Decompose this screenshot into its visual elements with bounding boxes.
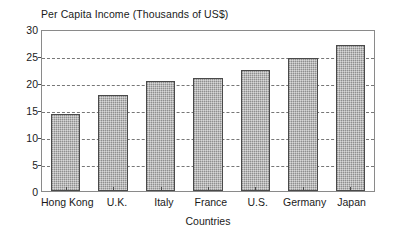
x-tick-label-japan: Japan bbox=[328, 196, 375, 208]
y-tick-label-15: 15 bbox=[2, 105, 38, 117]
bar-slot bbox=[232, 31, 279, 191]
x-tick-mark-4 bbox=[255, 187, 256, 191]
x-axis-tick-labels: Hong KongU.K.ItalyFranceU.S.GermanyJapan bbox=[41, 196, 375, 208]
bar-slot bbox=[327, 31, 374, 191]
bar-germany[interactable] bbox=[288, 58, 317, 191]
y-tick-label-0: 0 bbox=[2, 186, 38, 198]
bar-hong-kong[interactable] bbox=[51, 114, 80, 191]
x-tick-label-germany: Germany bbox=[281, 196, 328, 208]
bar-slot bbox=[89, 31, 136, 191]
x-tick-label-u-k: U.K. bbox=[94, 196, 141, 208]
x-tick-mark-0 bbox=[66, 187, 67, 191]
y-tick-label-30: 30 bbox=[2, 24, 38, 36]
bar-u-s[interactable] bbox=[241, 70, 270, 191]
bar-slot bbox=[184, 31, 231, 191]
bar-france[interactable] bbox=[193, 78, 222, 191]
x-axis-title: Countries bbox=[41, 215, 375, 227]
bar-slot bbox=[279, 31, 326, 191]
y-tick-label-20: 20 bbox=[2, 78, 38, 90]
plot-area bbox=[41, 30, 375, 192]
chart-title: Per Capita Income (Thousands of US$) bbox=[41, 8, 228, 20]
bar-italy[interactable] bbox=[146, 81, 175, 191]
y-tick-label-10: 10 bbox=[2, 132, 38, 144]
x-tick-label-italy: Italy bbox=[140, 196, 187, 208]
bar-japan[interactable] bbox=[336, 45, 365, 191]
x-tick-mark-5 bbox=[303, 187, 304, 191]
bar-chart: Per Capita Income (Thousands of US$) 051… bbox=[0, 0, 399, 246]
bar-slot bbox=[137, 31, 184, 191]
x-tick-label-hong-kong: Hong Kong bbox=[41, 196, 94, 208]
x-tick-mark-6 bbox=[350, 187, 351, 191]
bar-u-k[interactable] bbox=[98, 95, 127, 191]
x-tick-label-france: France bbox=[187, 196, 234, 208]
x-tick-mark-2 bbox=[161, 187, 162, 191]
y-tick-label-5: 5 bbox=[2, 159, 38, 171]
bar-slot bbox=[42, 31, 89, 191]
bars-container bbox=[42, 31, 374, 191]
x-tick-mark-3 bbox=[208, 187, 209, 191]
x-tick-mark-1 bbox=[113, 187, 114, 191]
y-tick-label-25: 25 bbox=[2, 51, 38, 63]
y-axis: 051015202530 bbox=[0, 30, 38, 192]
x-tick-label-u-s: U.S. bbox=[234, 196, 281, 208]
